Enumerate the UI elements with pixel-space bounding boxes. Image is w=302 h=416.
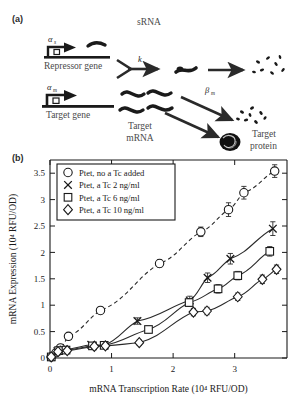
marker-diamond bbox=[272, 264, 281, 274]
x-tick-label: 1 bbox=[109, 364, 114, 374]
repressor-gene-label: Repressor gene bbox=[44, 61, 102, 71]
target-protein-label-1: Target bbox=[252, 129, 276, 139]
x-axis-label: mRNA Transcription Rate (10⁴ RFU/OD) bbox=[89, 384, 248, 395]
target-protein-dots bbox=[236, 106, 268, 125]
marker-diamond bbox=[135, 338, 144, 348]
marker-square bbox=[145, 326, 153, 334]
legend-label: Ptet, a Tc 6 ng/ml bbox=[79, 193, 140, 203]
x-tick-label: 3 bbox=[232, 364, 237, 374]
legend-label: Ptet, a Tc 10 ng/ml bbox=[79, 205, 144, 215]
srna-title: sRNA bbox=[137, 17, 161, 27]
chart-legend: Ptet, no a Tc addedPtet, a Tc 2 ng/mlPte… bbox=[57, 164, 175, 220]
y-tick-label: 1.5 bbox=[34, 274, 46, 284]
alpha-s-subscript: s bbox=[54, 39, 56, 45]
translation-arrow bbox=[181, 97, 232, 120]
y-tick-label: 2 bbox=[41, 248, 46, 258]
panel-b-chart: 00.511.522.533.50123mRNA Transcription R… bbox=[0, 152, 302, 416]
marker-circle bbox=[270, 167, 278, 175]
marker-diamond bbox=[189, 307, 198, 317]
x-tick-label: 2 bbox=[171, 364, 176, 374]
y-tick-label: 3.5 bbox=[34, 168, 46, 178]
beta-m-subscript: m bbox=[211, 90, 215, 96]
marker-circle bbox=[240, 189, 248, 197]
marker-circle bbox=[155, 259, 163, 267]
target-mrna-squiggles bbox=[120, 91, 172, 112]
series-2 bbox=[47, 222, 276, 361]
marker-diamond bbox=[258, 274, 267, 284]
target-protein-label-2: protein bbox=[250, 141, 277, 151]
marker-diamond bbox=[233, 292, 242, 302]
marker-square bbox=[214, 285, 222, 293]
alpha-s-symbol: α bbox=[48, 34, 53, 44]
target-mrna-label-2: mRNA bbox=[126, 133, 154, 143]
marker-square bbox=[185, 299, 193, 307]
marker-circle bbox=[64, 332, 72, 340]
marker-square bbox=[234, 272, 242, 280]
y-tick-label: 0 bbox=[41, 353, 46, 363]
series-fit-line bbox=[51, 269, 276, 357]
beta-m-symbol: β bbox=[204, 85, 210, 95]
y-axis-label: mRNA Expression (10⁴ RFU/OD) bbox=[8, 194, 19, 324]
target-gene-label: Target gene bbox=[46, 110, 90, 120]
panel-a-label: (a) bbox=[12, 14, 23, 24]
srna-degradation-dots bbox=[252, 55, 286, 76]
protein-production-arrow bbox=[165, 113, 218, 137]
marker-diamond bbox=[203, 306, 212, 316]
srna-squiggle-icon bbox=[88, 43, 105, 46]
srna-head-icon bbox=[177, 66, 184, 71]
marker-square bbox=[64, 194, 72, 202]
marker-square bbox=[266, 248, 274, 256]
panel-a-diagram: sRNA α s Repressor gene k bbox=[0, 0, 302, 160]
target-mrna-label-1: Target bbox=[128, 121, 152, 131]
x-tick-label: 0 bbox=[48, 364, 53, 374]
y-tick-label: 3 bbox=[41, 195, 46, 205]
y-tick-label: 0.5 bbox=[34, 327, 46, 337]
y-tick-label: 2.5 bbox=[34, 221, 46, 231]
legend-label: Ptet, a Tc 2 ng/ml bbox=[79, 180, 140, 190]
marker-circle bbox=[64, 168, 72, 176]
marker-circle bbox=[96, 306, 104, 314]
y-tick-label: 1 bbox=[41, 300, 46, 310]
marker-circle bbox=[197, 228, 205, 236]
k-rate-label: k bbox=[138, 54, 142, 64]
alpha-m-subscript: m bbox=[53, 87, 57, 93]
legend-label: Ptet, no a Tc added bbox=[79, 168, 145, 178]
folded-protein-icon bbox=[220, 133, 241, 151]
marker-circle bbox=[224, 205, 232, 213]
alpha-m-symbol: α bbox=[47, 82, 52, 92]
